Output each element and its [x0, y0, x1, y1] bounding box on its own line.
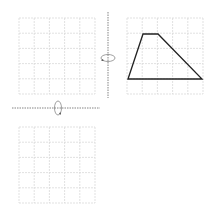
rotation-arrows: [55, 55, 116, 116]
grid-top-left: [19, 18, 95, 94]
diagram-canvas: [0, 0, 218, 215]
grid-bottom-left: [19, 127, 95, 203]
shapes: [128, 34, 202, 79]
grid-top-right: [127, 18, 203, 94]
trapezoid-shape: [128, 34, 202, 79]
grids: [19, 18, 203, 203]
